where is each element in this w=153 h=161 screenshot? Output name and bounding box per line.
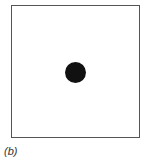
figure-label: (b) xyxy=(4,145,17,157)
center-dot xyxy=(65,62,86,83)
